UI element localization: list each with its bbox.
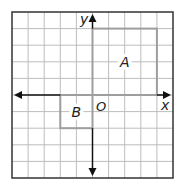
x-axis-label: x (160, 97, 170, 113)
shape-label-a: A (119, 54, 130, 70)
origin-label: O (96, 99, 106, 114)
shape-label-b: B (72, 104, 82, 120)
y-axis-label: y (79, 11, 89, 27)
y-axis-down-arrow-icon (89, 168, 97, 176)
x-axis-left-arrow-icon (14, 91, 22, 99)
coordinate-plane: y x O AB (0, 0, 180, 192)
y-axis-up-arrow-icon (89, 14, 97, 22)
